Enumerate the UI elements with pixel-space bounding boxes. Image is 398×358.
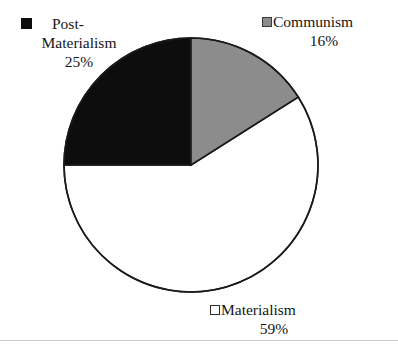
black-square-icon <box>21 18 32 29</box>
pie-value-materialism: 59% <box>210 319 338 338</box>
pie-chart-figure: Post- Materialism 25% Communism 16% Mate… <box>0 0 398 358</box>
pie-label-materialism: Materialism 59% <box>210 300 338 338</box>
white-square-icon <box>210 305 220 315</box>
pie-label-communism-text: Communism <box>273 12 353 31</box>
pie-label-post-materialism-line1: Post- <box>52 14 84 33</box>
pie-label-post-materialism: Post- Materialism 25% <box>14 14 144 71</box>
pie-label-communism: Communism 16% <box>262 12 386 50</box>
pie-value-post-materialism: 25% <box>14 52 144 71</box>
gray-square-icon <box>262 17 272 27</box>
pie-label-post-materialism-line2: Materialism <box>14 33 144 52</box>
pie-value-communism: 16% <box>262 31 386 50</box>
pie-label-materialism-text: Materialism <box>221 300 296 319</box>
bottom-divider <box>0 340 398 341</box>
